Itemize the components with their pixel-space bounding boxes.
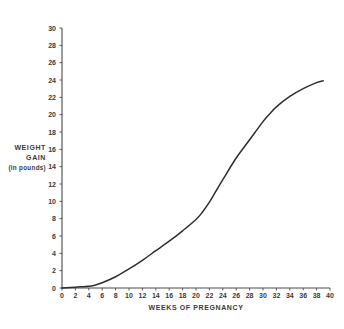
y-axis-title-line-2: GAIN [26, 154, 46, 161]
y-tick-label: 20 [48, 111, 56, 118]
y-tick-label: 26 [48, 59, 56, 66]
x-tick-label: 16 [165, 292, 173, 299]
x-tick-label: 38 [313, 292, 321, 299]
y-tick-label: 10 [48, 198, 56, 205]
y-tick-label: 18 [48, 129, 56, 136]
x-tick-label: 22 [206, 292, 214, 299]
x-tick-label: 26 [232, 292, 240, 299]
y-tick-label: 22 [48, 94, 56, 101]
y-tick-label: 0 [52, 285, 56, 292]
x-tick-label: 0 [60, 292, 64, 299]
y-axis-title-line-3: (in pounds) [8, 164, 46, 172]
y-tick-label: 6 [52, 233, 56, 240]
y-tick-label: 16 [48, 146, 56, 153]
weight-gain-chart: 024681012141618202224262830 024681012141… [0, 0, 344, 329]
y-axis-title-line-1: WEIGHT [14, 144, 46, 151]
x-tick-label: 24 [219, 292, 227, 299]
y-tick-label: 4 [52, 250, 56, 257]
x-tick-label: 6 [100, 292, 104, 299]
x-tick-label: 14 [152, 292, 160, 299]
x-tick-label: 40 [326, 292, 334, 299]
y-tick-label: 8 [52, 215, 56, 222]
y-tick-label: 28 [48, 42, 56, 49]
y-tick-label: 24 [48, 77, 56, 84]
x-tick-label: 12 [139, 292, 147, 299]
x-tick-label: 28 [246, 292, 254, 299]
x-tick-label: 10 [125, 292, 133, 299]
x-tick-label: 18 [179, 292, 187, 299]
x-tick-label: 4 [87, 292, 91, 299]
x-tick-label: 8 [114, 292, 118, 299]
y-tick-label: 2 [52, 267, 56, 274]
x-tick-labels: 0246810121416182022242628303234363840 [60, 292, 334, 299]
x-axis-title: WEEKS OF PREGNANCY [149, 304, 244, 311]
chart-canvas: 024681012141618202224262830 024681012141… [0, 0, 344, 329]
x-tick-label: 20 [192, 292, 200, 299]
y-tick-label: 30 [48, 25, 56, 32]
y-tick-label: 14 [48, 163, 56, 170]
x-tick-label: 36 [299, 292, 307, 299]
x-tick-label: 2 [73, 292, 77, 299]
x-tick-marks [62, 288, 330, 291]
y-tick-label: 12 [48, 181, 56, 188]
x-tick-label: 34 [286, 292, 294, 299]
x-tick-label: 30 [259, 292, 267, 299]
x-tick-label: 32 [273, 292, 281, 299]
